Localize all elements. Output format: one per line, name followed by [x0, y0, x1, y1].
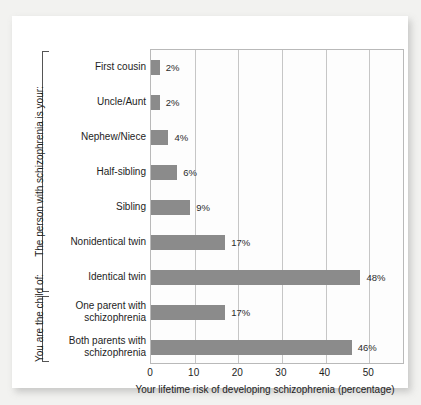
- chart-card: The person with schizophrenia is your:Yo…: [12, 16, 408, 388]
- bar: [151, 130, 168, 145]
- x-tick-40: 40: [319, 367, 330, 378]
- x-axis-title: Your lifetime risk of developing schizop…: [120, 384, 410, 395]
- bar: [151, 200, 190, 215]
- bar-value-label: 17%: [231, 235, 250, 250]
- x-tick-10: 10: [188, 367, 199, 378]
- category-label: Uncle/Aunt: [18, 96, 146, 108]
- category-label: Nephew/Niece: [18, 131, 146, 143]
- x-axis-ticks: 01020304050: [150, 365, 404, 381]
- bar: [151, 340, 352, 355]
- bar-value-label: 6%: [183, 165, 197, 180]
- x-tick-50: 50: [363, 367, 374, 378]
- x-tick-30: 30: [275, 367, 286, 378]
- category-label: One parent with schizophrenia: [18, 300, 146, 323]
- plot-area: 2%2%4%6%9%17%48%17%46%: [150, 49, 404, 364]
- bar: [151, 235, 225, 250]
- gridline-50: [369, 50, 370, 363]
- category-label: Nonidentical twin: [18, 236, 146, 248]
- bar: [151, 95, 160, 110]
- bar-value-label: 48%: [366, 270, 385, 285]
- bar-value-label: 46%: [358, 340, 377, 355]
- category-label: Identical twin: [18, 271, 146, 283]
- category-label: Half-sibling: [18, 166, 146, 178]
- bar: [151, 165, 177, 180]
- bar-value-label: 17%: [231, 305, 250, 320]
- bar-value-label: 9%: [196, 200, 210, 215]
- category-label: Sibling: [18, 201, 146, 213]
- category-label: First cousin: [18, 61, 146, 73]
- bar-value-label: 4%: [174, 130, 188, 145]
- category-label: Both parents with schizophrenia: [18, 335, 146, 358]
- bar-value-label: 2%: [166, 60, 180, 75]
- bar: [151, 270, 360, 285]
- x-tick-0: 0: [147, 367, 153, 378]
- gridline-40: [326, 50, 327, 363]
- category-axis-labels: First cousinUncle/AuntNephew/NieceHalf-s…: [16, 49, 146, 364]
- bar: [151, 305, 225, 320]
- x-tick-20: 20: [232, 367, 243, 378]
- bar-value-label: 2%: [166, 95, 180, 110]
- gridline-30: [282, 50, 283, 363]
- figure-background: The person with schizophrenia is your:Yo…: [0, 0, 421, 405]
- bar: [151, 60, 160, 75]
